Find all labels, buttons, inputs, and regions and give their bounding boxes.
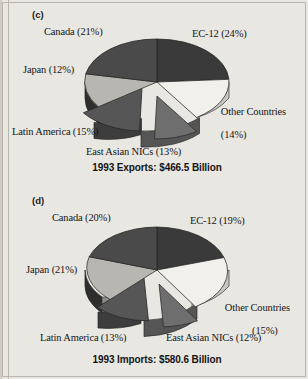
label-other-countries-c-line2: (14%) [221, 129, 247, 140]
slice-top-ec12-c [157, 39, 229, 82]
label-other-countries-c: Other Countries (14%) [206, 94, 286, 153]
panel-c: (c) [10, 0, 304, 186]
label-other-countries-c-line1: Other Countries [221, 106, 286, 117]
label-japan-d: Japan (21%) [26, 264, 77, 276]
label-japan-c: Japan (12%) [23, 64, 74, 76]
page-inner-rule [8, 0, 9, 379]
label-latin-america-c: Latin America (15%) [12, 126, 98, 138]
label-east-asian-nics-d: East Asian NICs (12%) [166, 332, 261, 344]
label-latin-america-d: Latin America (13%) [40, 332, 126, 344]
label-canada-d: Canada (20%) [52, 212, 111, 224]
panel-d: (d) [10, 186, 304, 379]
label-ec12-c: EC-12 (24%) [192, 28, 247, 40]
chart-title-c: 1993 Exports: $466.5 Billion [10, 162, 304, 173]
chart-title-d: 1993 Imports: $580.6 Billion [10, 354, 304, 365]
page-gutter [0, 0, 2, 379]
label-east-asian-nics-c: East Asian NICs (13%) [86, 146, 181, 158]
label-other-countries-d-line1: Other Countries [225, 302, 290, 313]
figure-page: (c) [0, 0, 308, 379]
label-canada-c: Canada (21%) [44, 26, 103, 38]
label-ec12-d: EC-12 (19%) [190, 215, 245, 227]
